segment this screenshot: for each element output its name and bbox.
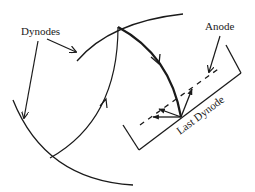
- electron-path-2: [118, 27, 181, 117]
- anode-pointer: [209, 36, 220, 72]
- dynodes-pointer-lower: [24, 41, 38, 118]
- electron-path-1: [50, 27, 118, 158]
- anode-label: Anode: [205, 20, 234, 32]
- dynodes-label: Dynodes: [21, 25, 60, 37]
- dynode-upper: [77, 14, 183, 61]
- dynodes-pointer-upper: [47, 39, 76, 52]
- photomultiplier-dynode-diagram: Dynodes Anode Last Dynode: [0, 0, 255, 192]
- secondary-electrons: [153, 89, 192, 117]
